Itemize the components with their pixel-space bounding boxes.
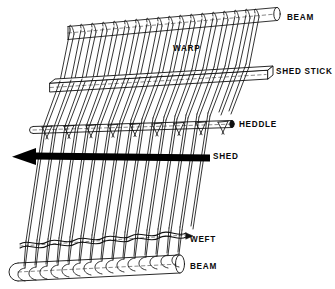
label-weft: WEFT [190, 235, 216, 244]
label-warp: WARP [173, 44, 200, 53]
label-shed: SHED [213, 152, 239, 161]
label-beam-top: BEAM [287, 13, 314, 22]
label-heddle: HEDDLE [239, 120, 277, 129]
label-shed-stick: SHED STICK [276, 67, 333, 76]
loom-diagram: BEAM WARP SHED STICK HEDDLE SHED WEFT BE… [0, 0, 335, 289]
label-beam-bottom: BEAM [190, 262, 217, 271]
loom-illustration: BEAM WARP SHED STICK HEDDLE SHED WEFT BE… [0, 0, 335, 289]
